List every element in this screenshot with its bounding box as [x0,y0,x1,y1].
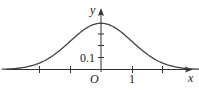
origin-label: O [90,72,99,86]
y-tick-label-0-1: 0.1 [80,51,95,65]
x-axis-label: x [187,71,194,85]
normal-density-curve [2,23,199,69]
x-tick-label-1: 1 [129,72,135,86]
normal-curve-chart: y x O 1 0.1 [0,0,199,91]
y-axis-label: y [89,3,96,17]
